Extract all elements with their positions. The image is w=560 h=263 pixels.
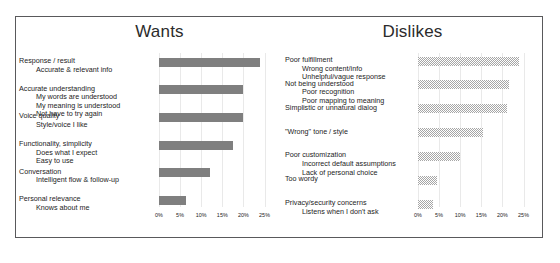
category-sublabel: Style/voice I like: [19, 121, 144, 130]
panel-dislikes: Dislikes Poor fulfillmentWrong content/i…: [279, 17, 542, 237]
chart-rows-wants: Response / resultAccurate & relevant inf…: [16, 53, 279, 207]
gridline: [180, 53, 181, 207]
x-axis-ticks-dislikes: 0%5%10%15%20%25%: [418, 209, 532, 231]
x-axis-ticks-wants: 0%5%10%15%20%25%: [159, 209, 273, 231]
axis-tick-label: 15%: [217, 212, 228, 218]
category-sublabel: Intelligent flow & follow-up: [19, 176, 144, 185]
bar: [418, 128, 483, 137]
bar: [418, 176, 437, 185]
category-label-group: Functionality, simplicityDoes what I exp…: [19, 140, 146, 166]
plot-area: [418, 53, 532, 207]
axis-tick-label: 15%: [476, 212, 487, 218]
gridline: [524, 53, 525, 207]
panel-title-dislikes: Dislikes: [279, 22, 542, 42]
chart-dislikes: Poor fulfillmentWrong content/infoUnhelp…: [279, 53, 542, 231]
category-label-group: Response / resultAccurate & relevant inf…: [19, 57, 146, 74]
axis-tick-label: 0%: [155, 212, 163, 218]
plot-area: [159, 53, 273, 207]
x-axis-wants: 0%5%10%15%20%25%: [16, 209, 279, 231]
panel-title-wants: Wants: [16, 22, 279, 42]
gridlines: [159, 53, 273, 207]
axis-tick-label: 20%: [497, 212, 508, 218]
category-label-group: Too wordy: [285, 175, 412, 184]
category-label-group: Voice qualityStyle/voice I like: [19, 112, 146, 129]
gridline: [265, 53, 266, 207]
category-sublabel: Accurate & relevant info: [19, 66, 144, 75]
category-label: "Wrong" tone / style: [285, 128, 410, 137]
axis-tick-label: 25%: [518, 212, 529, 218]
axis-tick-label: 25%: [259, 212, 270, 218]
bar: [159, 113, 243, 122]
category-sublabel: Easy to use: [19, 157, 144, 166]
axis-tick-label: 10%: [455, 212, 466, 218]
gridline: [201, 53, 202, 207]
bar: [159, 168, 210, 177]
category-label-group: Not being understoodPoor recognitionPoor…: [285, 80, 412, 106]
axis-tick-label: 5%: [176, 212, 184, 218]
category-label-group: ConversationIntelligent flow & follow-up: [19, 168, 146, 185]
panel-container: Wants Response / resultAccurate & releva…: [16, 17, 542, 237]
axis-tick-label: 20%: [238, 212, 249, 218]
bar: [418, 152, 460, 161]
category-label: Too wordy: [285, 175, 410, 184]
panel-wants: Wants Response / resultAccurate & releva…: [16, 17, 279, 237]
gridline: [243, 53, 244, 207]
gridline: [159, 53, 160, 207]
category-label-group: "Wrong" tone / style: [285, 128, 412, 137]
axis-tick-label: 10%: [196, 212, 207, 218]
bar: [418, 57, 519, 66]
axis-tick-label: 5%: [435, 212, 443, 218]
bar: [159, 85, 243, 94]
bar: [418, 80, 509, 89]
bar: [159, 141, 233, 150]
bar: [418, 200, 433, 209]
bar: [159, 58, 260, 67]
gridline: [222, 53, 223, 207]
gridline: [502, 53, 503, 207]
category-label: Simplistic or unnatural dialog: [285, 104, 410, 113]
axis-tick-label: 0%: [414, 212, 422, 218]
slide-frame: Wants Response / resultAccurate & releva…: [15, 16, 543, 238]
category-label-group: Poor fulfillmentWrong content/infoUnhelp…: [285, 56, 412, 82]
chart-wants: Response / resultAccurate & relevant inf…: [16, 53, 279, 231]
x-axis-dislikes: 0%5%10%15%20%25%: [279, 209, 542, 231]
chart-rows-dislikes: Poor fulfillmentWrong content/infoUnhelp…: [279, 53, 542, 207]
bar: [418, 104, 507, 113]
bar: [159, 196, 186, 205]
category-label-group: Simplistic or unnatural dialog: [285, 104, 412, 113]
